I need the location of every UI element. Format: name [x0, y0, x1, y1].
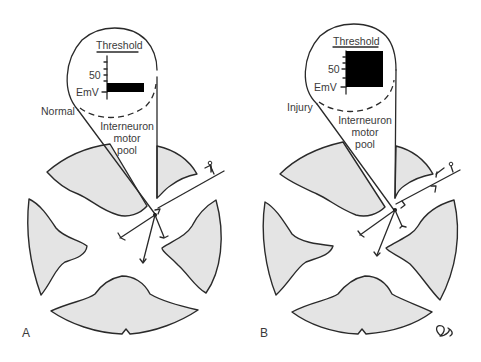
tick-label-50: 50: [328, 63, 340, 75]
synapse-terminal-icon: [401, 201, 405, 208]
pool-label-line-1: Interneuron: [338, 114, 392, 126]
afferent-arrow-icon: [431, 186, 436, 192]
spinal-lobe-left: [263, 202, 333, 295]
baseline-label: EmV: [76, 86, 99, 98]
response-bar-injury: [346, 51, 383, 87]
pool-label-line-2: motor: [114, 132, 141, 144]
spinal-lobe-bottom: [292, 276, 432, 334]
pool-label-line-2: motor: [352, 126, 379, 138]
spinal-lobe-right: [162, 200, 221, 293]
spinal-lobe-bottom: [51, 276, 198, 334]
pool-label-line-1: Interneuron: [100, 120, 154, 132]
pool-label-line-3: pool: [117, 144, 137, 156]
condition-label: Normal: [41, 105, 75, 117]
threshold-label: Threshold: [333, 35, 380, 47]
sensory-ending-icon: [449, 162, 453, 166]
spinal-lobe-top-right: [395, 146, 433, 198]
figure-canvas: Threshold 50 EmV Normal Interneuron moto…: [0, 0, 481, 362]
response-bar-normal: [107, 83, 144, 92]
spinal-lobe-left: [28, 199, 87, 295]
baseline-label: EmV: [314, 81, 337, 93]
pool-label-line-3: pool: [355, 138, 375, 150]
threshold-label: Threshold: [96, 39, 143, 51]
panel-b: Threshold 50 EmV Injury Interneuron moto…: [260, 24, 460, 340]
panel-label: A: [22, 326, 30, 340]
panel-a: Threshold 50 EmV Normal Interneuron moto…: [22, 28, 224, 340]
sensory-ending-icon: [208, 161, 212, 165]
tick-label-50: 50: [89, 69, 101, 81]
panel-label: B: [260, 326, 268, 340]
condition-label: Injury: [287, 101, 313, 113]
spinal-lobe-top-left: [280, 142, 385, 216]
